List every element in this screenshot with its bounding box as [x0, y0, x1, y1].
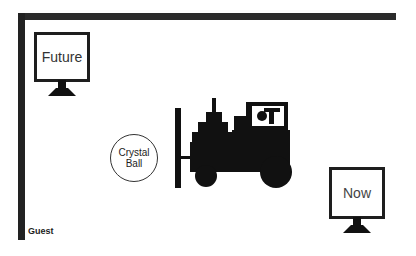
future-label: Future	[42, 49, 82, 65]
monitor-stand-icon	[46, 80, 78, 98]
future-monitor-screen: Future	[34, 32, 90, 82]
frame-left-border	[18, 13, 25, 240]
future-monitor: Future	[34, 32, 92, 98]
crystal-ball-line1: Crystal	[118, 147, 149, 158]
now-label: Now	[343, 185, 371, 201]
forklift-icon	[172, 94, 300, 194]
frame-top-border	[18, 13, 396, 20]
crystal-ball-line2: Ball	[118, 158, 149, 169]
now-monitor: Now	[329, 167, 387, 233]
now-monitor-screen: Now	[329, 167, 385, 219]
guest-label: Guest	[28, 226, 54, 236]
monitor-stand-icon	[341, 217, 373, 235]
crystal-ball: Crystal Ball	[110, 134, 158, 182]
